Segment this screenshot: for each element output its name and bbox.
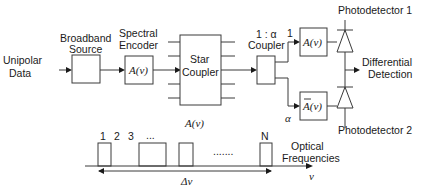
branch-bottom-line [275,78,298,106]
output-label-line2: Detection [368,68,413,80]
encoder-function: A(ν) [128,64,148,77]
output-label-line1: Differential [362,56,412,68]
arrow-right-icon [266,168,272,174]
axis-label-line1: Optical [291,140,324,152]
axis-label-line2: Frequencies [282,152,340,164]
star-label-line2: Coupler [182,66,219,78]
spectral-pulse [260,143,272,166]
source-label-line2: Source [69,43,102,55]
pd2-label: Photodetector 2 [338,124,412,136]
arrow-icon [251,67,257,73]
spectral-pulse [98,143,111,166]
branch-bottom-label: α [285,112,291,124]
axis-variable: ν [309,170,314,182]
pulse-label-n: N [261,130,269,142]
pulse-label-2: 2 [114,130,120,142]
pulse-label-3: 3 [128,130,134,142]
star-function: A(ν) [184,117,204,130]
input-label-line2: Data [9,67,31,79]
arrow-icon [294,39,300,45]
photodiode-1-icon [337,30,353,52]
encoder-label-line1: Spectral [119,27,158,39]
arrow-icon [66,67,72,73]
ocdma-diagram: Unipolar Data Broadband Source Spectral … [0,0,426,193]
branch-top-label: 1 [287,27,293,39]
spectral-pulse [179,143,193,166]
pulse-label-1: 1 [100,130,106,142]
arrow-left-icon [98,168,104,174]
photodiode-2-icon [337,87,353,108]
pulse-dots: ....... [213,145,233,157]
spectral-pulse [139,143,166,166]
encoder-label-line2: Encoder [119,39,159,51]
bandwidth-label: Δν [180,175,192,187]
spectrum-plot: 1 2 3 ... N ....... ν Optical Frequencie… [85,129,340,187]
ratio-coupler-box [257,56,275,84]
coupler-label: Coupler [248,39,285,51]
star-label-line1: Star [190,53,210,65]
pd1-label: Photodetector 1 [338,4,412,16]
filter-bottom-function: A(ν) [302,100,322,113]
input-label-line1: Unipolar [3,54,43,66]
pulse-label-ellipsis: ... [146,129,155,141]
broadband-source-box [72,55,100,83]
arrow-icon [294,103,300,109]
filter-top-function: A(ν) [302,36,322,49]
arrow-icon [119,67,125,73]
arrow-icon [354,67,360,73]
